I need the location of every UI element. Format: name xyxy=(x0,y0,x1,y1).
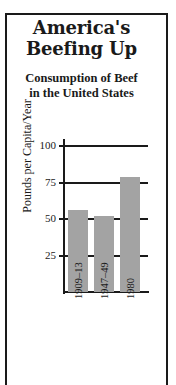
y-tick-label-50: 50 xyxy=(16,213,56,224)
y-tick-label-25: 25 xyxy=(16,250,56,261)
x-label-1980: 1980 xyxy=(125,239,136,299)
y-tick-100 xyxy=(59,145,64,147)
y-tick-label-75: 75 xyxy=(16,177,56,188)
x-label-1909-13: 1909–13 xyxy=(73,239,84,299)
x-label-1947-49: 1947–49 xyxy=(99,239,110,299)
gridline-100 xyxy=(63,145,148,147)
y-axis-line xyxy=(63,139,65,294)
y-tick-label-100: 100 xyxy=(16,140,56,151)
y-tick-25 xyxy=(59,255,64,257)
y-tick-50 xyxy=(59,218,64,220)
y-tick-75 xyxy=(59,182,64,184)
y-axis-title: Pounds per Capita/Year xyxy=(21,96,33,216)
